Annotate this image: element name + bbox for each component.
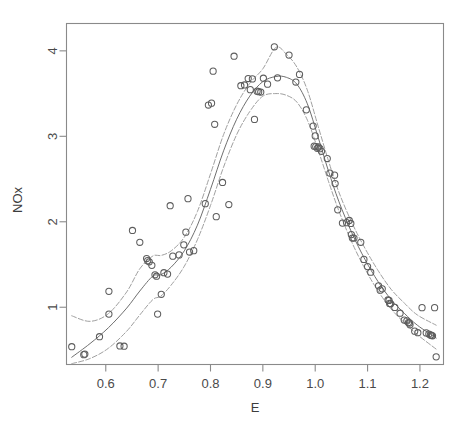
data-point-marker xyxy=(419,305,425,311)
band-curve-path xyxy=(72,47,436,325)
y-axis-title: NOx xyxy=(10,187,25,214)
x-tick-label: 0.9 xyxy=(254,376,272,391)
data-points xyxy=(69,44,440,360)
data-point-marker xyxy=(210,68,216,74)
data-point-marker xyxy=(249,76,255,82)
data-point-marker xyxy=(155,311,161,317)
x-axis-ticks: 0.60.70.80.91.01.11.2 xyxy=(97,365,429,391)
data-point-marker xyxy=(213,214,219,220)
confidence-band-curves xyxy=(72,47,436,364)
data-point-marker xyxy=(231,53,237,59)
data-point-marker xyxy=(153,273,159,279)
x-tick-label: 1.2 xyxy=(411,376,429,391)
data-point-marker xyxy=(260,75,266,81)
x-tick-label: 0.7 xyxy=(149,376,167,391)
plot-canvas: 0.60.70.80.91.01.11.2 1234 E NOx xyxy=(0,0,461,433)
data-point-marker xyxy=(185,196,191,202)
y-tick-label: 4 xyxy=(45,47,60,54)
data-point-marker xyxy=(397,310,403,316)
data-point-marker xyxy=(181,242,187,248)
data-point-marker xyxy=(129,227,135,233)
band-curve-path xyxy=(72,94,436,364)
x-tick-label: 0.6 xyxy=(97,376,115,391)
data-point-marker xyxy=(264,81,270,87)
data-point-marker xyxy=(303,107,309,113)
data-point-marker xyxy=(212,121,218,127)
fit-curve-path xyxy=(72,76,436,357)
y-tick-label: 1 xyxy=(45,304,60,311)
data-point-marker xyxy=(164,271,170,277)
data-point-marker xyxy=(274,75,280,81)
x-tick-label: 0.8 xyxy=(201,376,219,391)
data-point-marker xyxy=(247,87,253,93)
data-point-marker xyxy=(106,288,112,294)
plot-frame xyxy=(67,24,444,365)
data-point-marker xyxy=(226,201,232,207)
data-point-marker xyxy=(170,253,176,259)
data-point-marker xyxy=(392,304,398,310)
data-point-marker xyxy=(432,305,438,311)
data-point-marker xyxy=(293,79,299,85)
data-point-marker xyxy=(121,343,127,349)
x-tick-label: 1.1 xyxy=(359,376,377,391)
data-point-marker xyxy=(219,179,225,185)
data-point-marker xyxy=(96,334,102,340)
data-point-marker xyxy=(241,82,247,88)
data-point-marker xyxy=(106,311,112,317)
data-point-marker xyxy=(251,116,257,122)
y-tick-label: 2 xyxy=(45,218,60,225)
data-point-marker xyxy=(69,344,75,350)
y-tick-label: 3 xyxy=(45,133,60,140)
scatter-plot-figure: 0.60.70.80.91.01.11.2 1234 E NOx xyxy=(0,0,461,433)
x-axis-title: E xyxy=(251,400,260,415)
data-point-marker xyxy=(167,203,173,209)
data-point-marker xyxy=(310,123,316,129)
data-point-marker xyxy=(137,239,143,245)
x-tick-label: 1.0 xyxy=(306,376,324,391)
fitted-smooth-curve xyxy=(72,76,436,357)
y-axis-ticks: 1234 xyxy=(45,47,67,311)
data-point-marker xyxy=(433,354,439,360)
